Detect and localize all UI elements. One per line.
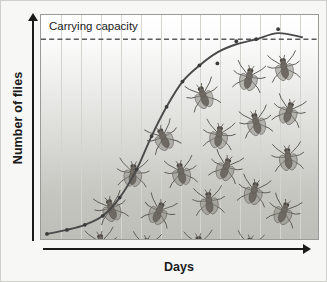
fly-illustration [192, 185, 227, 217]
y-axis-label: Number of flies [11, 33, 25, 203]
fly-illustration [235, 174, 273, 209]
fly-illustration [116, 158, 150, 189]
fly-illustrations [83, 50, 308, 240]
fly-illustration [271, 141, 306, 173]
data-point [254, 37, 258, 41]
plot-area: Carrying capacity [40, 14, 319, 240]
fly-illustration [201, 119, 237, 152]
y-axis-line [32, 19, 34, 241]
figure-container: Number of flies Days Carrying capacity [0, 0, 327, 282]
data-point [101, 214, 105, 218]
y-axis-arrow-icon [28, 13, 38, 21]
fly-illustration [162, 155, 199, 189]
x-axis-label: Days [39, 260, 319, 274]
data-point [150, 134, 154, 138]
fly-illustration [183, 76, 223, 114]
data-point [215, 62, 219, 66]
data-point [45, 232, 49, 236]
chart-svg [41, 15, 319, 240]
data-point [198, 64, 202, 68]
fly-illustration [264, 192, 304, 230]
fly-illustration [232, 230, 267, 240]
data-point [83, 223, 87, 227]
growth-curve [47, 33, 302, 234]
data-point [276, 27, 280, 31]
data-point [65, 228, 69, 232]
data-point [234, 39, 238, 43]
fly-illustration [230, 60, 267, 94]
fly-illustration [182, 230, 216, 240]
x-axis-arrow-icon [303, 244, 311, 254]
fly-illustration [129, 231, 164, 240]
data-point [118, 196, 122, 200]
x-axis-line [43, 248, 305, 250]
fly-illustration [270, 93, 309, 129]
fly-illustration [139, 192, 179, 230]
fly-illustration [266, 50, 302, 84]
data-point [181, 80, 185, 84]
carrying-capacity-label: Carrying capacity [49, 20, 138, 32]
fly-illustration [83, 227, 119, 240]
data-point [135, 167, 139, 171]
fly-illustration [206, 149, 245, 186]
data-point [165, 105, 169, 109]
fly-illustration [143, 118, 184, 157]
fly-illustration [237, 105, 275, 140]
